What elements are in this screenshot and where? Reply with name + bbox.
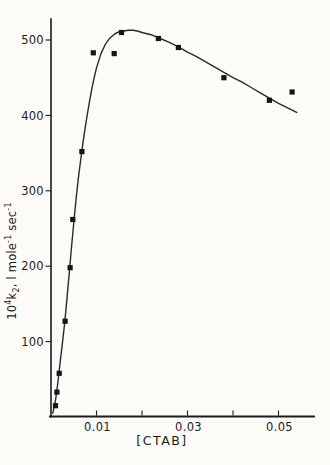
x-axis-title: [CTAB] — [102, 433, 222, 448]
plot-canvas: 0.010.030.05100200300400500 — [0, 0, 330, 465]
scatter-plot-figure: 0.010.030.05100200300400500 104k2, l mol… — [0, 0, 330, 465]
y-title-base: 10 — [5, 305, 19, 320]
data-point-marker — [54, 390, 59, 395]
y-tick-label: 300 — [21, 184, 44, 198]
data-point-marker — [68, 265, 73, 270]
y-title-units-1-exp: -1 — [4, 235, 13, 243]
fit-curve-line — [53, 30, 297, 413]
y-tick-label: 200 — [21, 259, 44, 273]
data-point-marker — [91, 50, 96, 55]
data-point-marker — [57, 371, 62, 376]
y-tick-label: 500 — [21, 33, 44, 47]
data-point-marker — [53, 403, 58, 408]
data-point-marker — [70, 217, 75, 222]
y-title-units-2-exp: -1 — [4, 202, 13, 210]
data-point-marker — [290, 89, 295, 94]
data-point-marker — [79, 149, 84, 154]
y-axis-title: 104k2, l mole-1 sec-1 — [4, 151, 22, 371]
y-tick-label: 400 — [21, 109, 44, 123]
x-tick-label: 0.01 — [84, 420, 111, 434]
x-tick-label: 0.05 — [266, 420, 293, 434]
data-point-marker — [112, 51, 117, 56]
data-point-marker — [119, 30, 124, 35]
y-title-units-1: , l mole — [5, 243, 19, 287]
data-point-marker — [221, 75, 226, 80]
y-title-symbol: k — [5, 293, 19, 300]
y-title-subscript: 2 — [12, 287, 21, 292]
x-tick-label: 0.03 — [175, 420, 202, 434]
data-point-marker — [156, 36, 161, 41]
y-title-units-2: sec — [5, 211, 19, 235]
data-point-marker — [63, 319, 68, 324]
y-title-exponent: 4 — [4, 299, 13, 304]
data-point-marker — [176, 45, 181, 50]
y-tick-label: 100 — [21, 335, 44, 349]
data-point-marker — [267, 98, 272, 103]
